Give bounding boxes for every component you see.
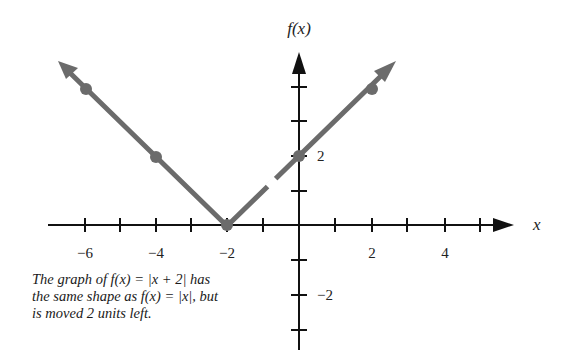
y-tick-label: 2 [317, 148, 325, 164]
y-axis-arrow-icon [292, 52, 306, 74]
x-axis-arrow-icon [493, 218, 514, 232]
caption-line: is moved 2 units left. [32, 305, 292, 322]
point-neg2-0 [221, 219, 233, 231]
caption-line: the same shape as f(x) = |x|, but [32, 288, 292, 305]
y-axis [291, 52, 307, 350]
point-2-4 [366, 83, 378, 95]
x-tick-label: −4 [148, 245, 164, 261]
x-tick-label: 4 [441, 245, 449, 261]
x-axis-label: x [532, 215, 541, 234]
point-0-2 [293, 150, 305, 162]
x-tick-label: 2 [368, 245, 376, 261]
function-line [58, 61, 396, 231]
x-tick-label: −6 [77, 245, 93, 261]
caption-line: The graph of f(x) = |x + 2| has [32, 271, 292, 288]
x-tick-label: −2 [219, 245, 235, 261]
x-axis [48, 218, 514, 232]
data-points [80, 83, 378, 231]
y-axis-label: f(x) [287, 19, 311, 38]
y-tick-label: −2 [317, 287, 333, 303]
point-neg6-4 [80, 83, 92, 95]
point-neg4-2 [150, 151, 162, 163]
graph-caption: The graph of f(x) = |x + 2| has the same… [32, 271, 292, 322]
